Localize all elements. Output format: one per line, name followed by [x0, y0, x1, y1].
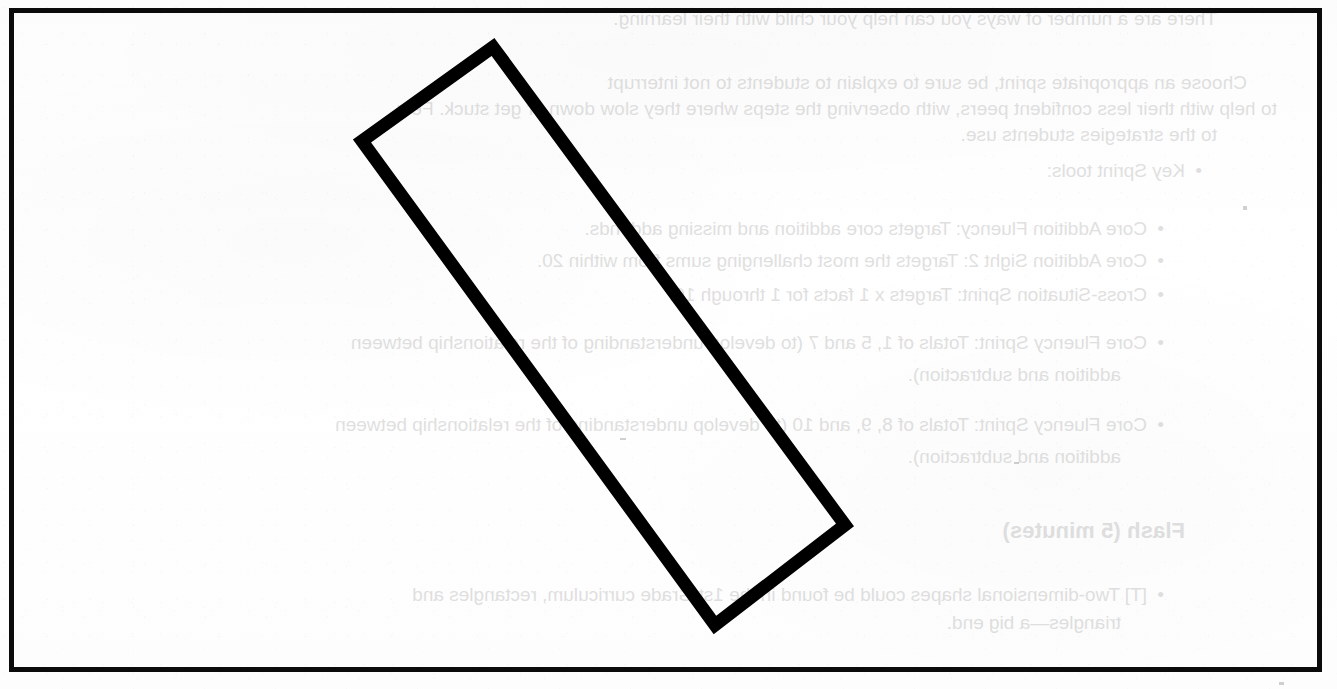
rotated-rectangle-shape [362, 47, 845, 625]
scanned-page: There are a number of ways you can help … [0, 0, 1337, 689]
drawn-shape-layer [0, 0, 1337, 689]
